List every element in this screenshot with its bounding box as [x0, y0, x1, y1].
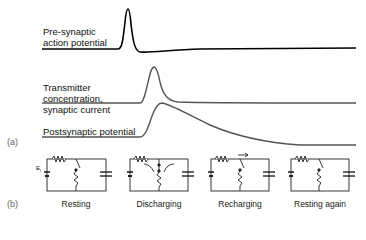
- label-transmitter-line3: synaptic current: [43, 104, 110, 115]
- circuit-resting-again: [288, 156, 355, 191]
- panel-b-tag: (b): [7, 199, 18, 209]
- caption-resting-again: Resting again: [280, 199, 360, 209]
- label-transmitter-line1: Transmitter: [43, 82, 91, 93]
- battery-label: El: [36, 163, 41, 176]
- circuit-discharging: [127, 156, 194, 191]
- circuit-recharging: [208, 153, 275, 191]
- caption-resting: Resting: [36, 199, 116, 209]
- panel-a-tag: (a): [7, 137, 18, 147]
- circuit-resting: [44, 156, 112, 191]
- caption-discharging: Discharging: [119, 199, 199, 209]
- label-presynaptic-line1: Pre-synaptic: [43, 26, 96, 37]
- label-presynaptic-line2: action potential: [43, 37, 107, 48]
- label-postsynaptic: Postsynaptic potential: [43, 126, 135, 137]
- caption-recharging: Recharging: [200, 199, 280, 209]
- label-transmitter-line2: concentration,: [43, 93, 103, 104]
